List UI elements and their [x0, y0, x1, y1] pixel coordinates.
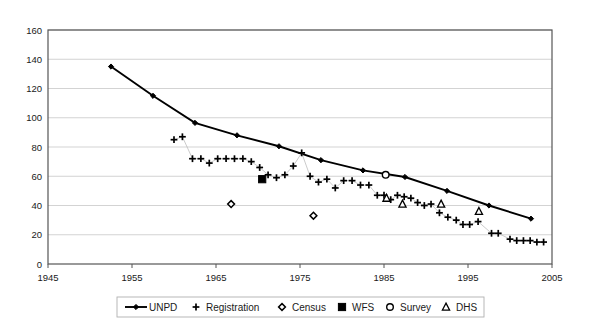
legend-label-dhs: DHS [456, 302, 477, 313]
legend-label-survey: Survey [400, 302, 431, 313]
scatter-line-chart: 020406080100120140160 194519551965197519… [0, 0, 594, 332]
x-tick-label-1965: 1965 [205, 272, 226, 283]
series-survey [382, 171, 389, 178]
x-tick-label-1985: 1985 [373, 272, 394, 283]
y-tick-label-120: 120 [26, 83, 42, 94]
legend-item-wfs[interactable]: WFS [338, 302, 374, 313]
y-tick-label-0: 0 [37, 259, 42, 270]
y-tick-label-100: 100 [26, 112, 42, 123]
y-tick-label-40: 40 [31, 200, 42, 211]
legend-label-registration: Registration [206, 302, 259, 313]
y-tick-label-80: 80 [31, 142, 42, 153]
y-tick-label-60: 60 [31, 171, 42, 182]
y-tick-label-140: 140 [26, 54, 42, 65]
data-point-wfs-0 [259, 176, 266, 183]
x-tick-label-2005: 2005 [541, 272, 562, 283]
y-tick-label-20: 20 [31, 229, 42, 240]
chart-legend: UNPDRegistrationCensusWFSSurveyDHS [117, 297, 484, 317]
legend-label-unpd: UNPD [149, 302, 177, 313]
legend-label-census: Census [292, 302, 326, 313]
x-tick-label-1955: 1955 [121, 272, 142, 283]
legend-label-wfs: WFS [352, 302, 375, 313]
chart-container: 020406080100120140160 194519551965197519… [0, 0, 594, 332]
data-point-survey-0 [382, 171, 389, 178]
series-wfs [259, 176, 266, 183]
x-tick-label-1945: 1945 [37, 272, 58, 283]
y-tick-label-160: 160 [26, 25, 42, 36]
x-tick-label-1995: 1995 [457, 272, 478, 283]
x-tick-label-1975: 1975 [289, 272, 310, 283]
